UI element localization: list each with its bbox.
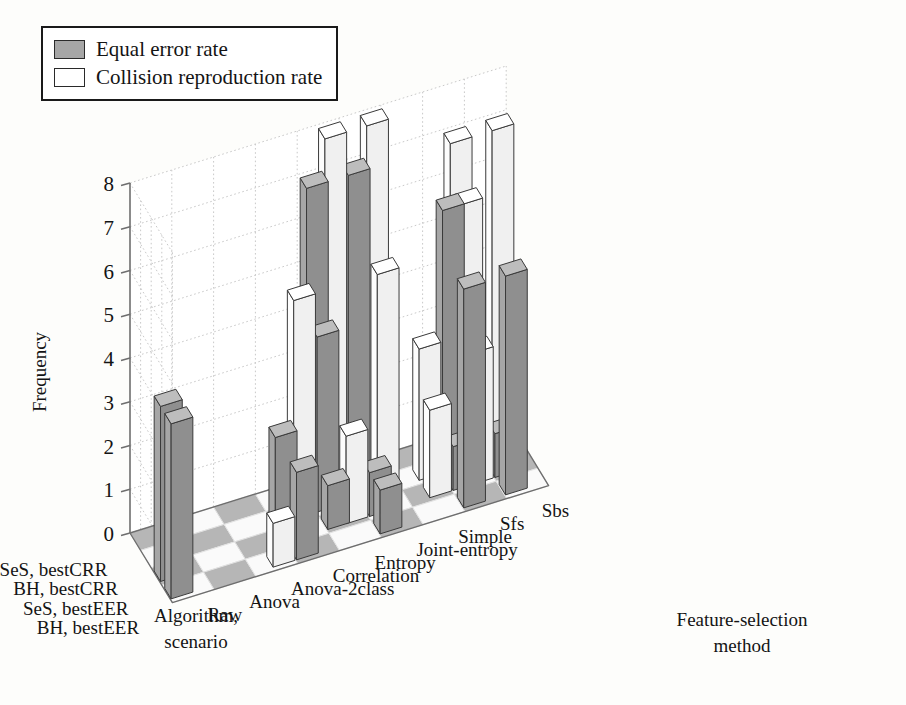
bar-chart-3d: 012345678FrequencySeS, bestCRRBH, bestCR… <box>0 0 906 705</box>
z-axis-tick <box>121 271 130 274</box>
z-axis-title: Frequency <box>29 331 50 412</box>
y-axis-title-line2: method <box>714 635 771 656</box>
bar-eer-3-3-side <box>297 466 319 560</box>
chart-figure: 012345678FrequencySeS, bestCRRBH, bestCR… <box>0 0 906 705</box>
z-tick-label-1: 1 <box>104 478 115 502</box>
legend-swatch-crr <box>54 68 85 87</box>
legend-label-eer: Equal error rate <box>96 39 228 60</box>
bar-eer-3-5-side <box>380 483 402 534</box>
z-tick-label-5: 5 <box>104 303 115 327</box>
legend-swatch-eer <box>54 40 85 59</box>
z-axis-tick <box>121 533 130 536</box>
bar-crr-2-6-side <box>430 403 452 497</box>
chart-legend: Equal error rate Collision reproduction … <box>41 26 338 101</box>
z-tick-label-4: 4 <box>104 347 115 371</box>
bar-crr-3-2-side <box>273 517 295 568</box>
z-tick-label-7: 7 <box>104 216 115 240</box>
x-axis-title-line2: scenario <box>164 631 227 652</box>
legend-item-eer: Equal error rate <box>54 35 322 63</box>
legend-item-crr: Collision reproduction rate <box>54 63 322 91</box>
y-axis-title-line1: Feature-selection <box>677 609 808 630</box>
z-axis-tick <box>121 358 130 361</box>
bar-eer-2-4-side <box>328 479 350 530</box>
bar-crr-1-6-front <box>413 339 419 481</box>
bar-eer-3-0-side <box>171 417 193 599</box>
bar-eer-2-0-front <box>154 396 160 581</box>
z-tick-label-8: 8 <box>104 172 115 196</box>
z-axis-tick <box>121 314 130 317</box>
x-tick-label-2: SeS, bestEER <box>23 598 129 619</box>
bar-eer-3-0-front <box>165 413 171 598</box>
z-tick-label-6: 6 <box>104 260 115 284</box>
z-axis-tick <box>121 446 130 449</box>
x-tick-label-1: BH, bestCRR <box>13 578 118 599</box>
bar-eer-3-8-front <box>499 266 505 495</box>
bar-eer-3-7-side <box>464 282 486 508</box>
y-tick-label-8: Sbs <box>542 500 569 521</box>
z-axis-tick <box>121 402 130 405</box>
y-tick-label-0: Raw <box>207 604 242 625</box>
z-tick-label-3: 3 <box>104 391 115 415</box>
z-axis-tick <box>121 183 130 186</box>
bar-eer-3-7-front <box>457 279 463 508</box>
y-tick-label-7: Sfs <box>500 513 524 534</box>
legend-label-crr: Collision reproduction rate <box>96 67 322 88</box>
z-axis-tick <box>121 489 130 492</box>
bar-crr-2-6-front <box>423 400 429 498</box>
bar-eer-3-8-side <box>506 269 528 495</box>
z-tick-label-0: 0 <box>104 522 115 546</box>
z-tick-label-2: 2 <box>104 435 115 459</box>
z-axis-tick <box>121 227 130 230</box>
x-tick-label-3: BH, bestEER <box>37 617 140 638</box>
x-tick-label-0: SeS, bestCRR <box>0 559 108 580</box>
